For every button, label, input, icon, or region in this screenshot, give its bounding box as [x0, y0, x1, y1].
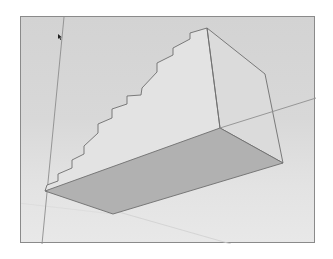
arrow-pointer-icon	[58, 34, 62, 40]
scene-canvas[interactable]	[21, 17, 316, 244]
vertical-axis-line	[42, 17, 64, 244]
modeling-viewport[interactable]	[20, 16, 315, 243]
